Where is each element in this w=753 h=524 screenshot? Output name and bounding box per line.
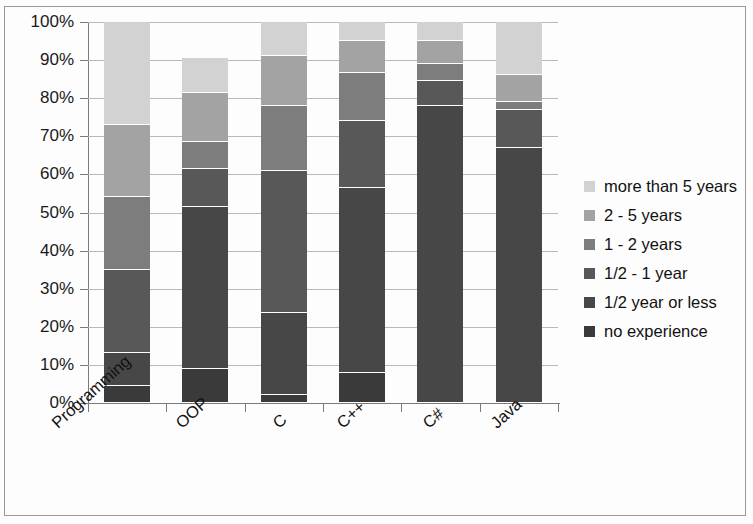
legend-item[interactable]: 1/2 year or less	[584, 288, 749, 317]
legend-item[interactable]: 1/2 - 1 year	[584, 259, 749, 288]
bar-segment[interactable]	[261, 22, 307, 56]
y-axis-tick-label: 20%	[40, 317, 74, 337]
legend-swatch-icon	[584, 268, 595, 279]
bar-segment[interactable]	[496, 102, 542, 110]
legend-item-label: 1/2 year or less	[604, 293, 717, 312]
y-axis-tick-label: 10%	[40, 355, 74, 375]
bar-segment[interactable]	[417, 64, 463, 81]
bar-segment[interactable]	[417, 81, 463, 106]
bar-segment[interactable]	[261, 395, 307, 403]
y-axis-tick-label: 50%	[40, 203, 74, 223]
bar-segment[interactable]	[496, 148, 542, 403]
x-axis-tick	[480, 403, 481, 412]
bar-segment[interactable]	[182, 207, 228, 369]
bar-slot	[166, 22, 244, 403]
bar-segment[interactable]	[339, 22, 385, 41]
stacked-bar[interactable]	[496, 22, 542, 403]
legend-item-label: more than 5 years	[604, 177, 737, 196]
chart-legend: more than 5 years2 - 5 years1 - 2 years1…	[584, 172, 749, 346]
bar-segment[interactable]	[339, 121, 385, 188]
legend-item[interactable]: more than 5 years	[584, 172, 749, 201]
x-axis-tick	[166, 403, 167, 412]
bar-segment[interactable]	[182, 369, 228, 403]
bar-slot	[480, 22, 558, 403]
x-axis-tick	[401, 403, 402, 412]
legend-swatch-icon	[584, 326, 595, 337]
legend-item[interactable]: 2 - 5 years	[584, 201, 749, 230]
bar-segment[interactable]	[339, 188, 385, 373]
stacked-bar[interactable]	[261, 22, 307, 403]
y-axis-tick-label: 90%	[40, 50, 74, 70]
bar-segment[interactable]	[496, 22, 542, 75]
x-axis-tick	[323, 403, 324, 412]
bar-slot	[323, 22, 401, 403]
bar-segment[interactable]	[182, 93, 228, 143]
stacked-bar[interactable]	[182, 22, 228, 403]
legend-swatch-icon	[584, 239, 595, 250]
legend-swatch-icon	[584, 210, 595, 221]
x-axis-tick	[558, 403, 559, 412]
y-axis-tick-label: 80%	[40, 88, 74, 108]
plot-area	[88, 22, 558, 403]
legend-item-label: 1/2 - 1 year	[604, 264, 687, 283]
bar-slot	[88, 22, 166, 403]
bar-segment[interactable]	[182, 169, 228, 207]
stacked-bar[interactable]	[417, 22, 463, 403]
legend-swatch-icon	[584, 181, 595, 192]
bar-segment[interactable]	[339, 73, 385, 121]
bar-segment[interactable]	[417, 22, 463, 41]
legend-item-label: no experience	[604, 322, 708, 341]
chart-container: 0%10%20%30%40%50%60%70%80%90%100% Progra…	[0, 0, 753, 524]
legend-item[interactable]: no experience	[584, 317, 749, 346]
bar-segment[interactable]	[104, 125, 150, 197]
y-axis-tick-label: 40%	[40, 241, 74, 261]
legend-item-label: 2 - 5 years	[604, 206, 682, 225]
bar-segment[interactable]	[496, 110, 542, 148]
bar-slot	[245, 22, 323, 403]
legend-swatch-icon	[584, 297, 595, 308]
y-axis-tick-label: 70%	[40, 126, 74, 146]
legend-item[interactable]: 1 - 2 years	[584, 230, 749, 259]
y-axis-tick-label: 30%	[40, 279, 74, 299]
bar-segment[interactable]	[261, 313, 307, 395]
bar-segment[interactable]	[104, 22, 150, 125]
y-axis-tick-label: 100%	[31, 12, 74, 32]
bar-segment[interactable]	[339, 373, 385, 403]
bar-segment[interactable]	[496, 75, 542, 102]
bar-segment[interactable]	[104, 197, 150, 269]
bar-segment[interactable]	[182, 142, 228, 169]
bar-segment[interactable]	[104, 386, 150, 403]
x-axis-tick	[245, 403, 246, 412]
bar-segment[interactable]	[104, 270, 150, 354]
legend-item-label: 1 - 2 years	[604, 235, 682, 254]
bar-slot	[401, 22, 479, 403]
stacked-bar[interactable]	[104, 22, 150, 403]
bar-segment[interactable]	[417, 106, 463, 403]
bar-segment[interactable]	[261, 171, 307, 314]
y-axis-tick-label: 60%	[40, 164, 74, 184]
bar-segment[interactable]	[417, 41, 463, 64]
bar-segment[interactable]	[339, 41, 385, 73]
stacked-bar[interactable]	[339, 22, 385, 403]
x-axis-line	[88, 403, 560, 404]
bar-segment[interactable]	[261, 56, 307, 106]
bar-segment[interactable]	[261, 106, 307, 171]
y-axis-labels: 0%10%20%30%40%50%60%70%80%90%100%	[0, 22, 74, 403]
bar-segment[interactable]	[182, 58, 228, 92]
